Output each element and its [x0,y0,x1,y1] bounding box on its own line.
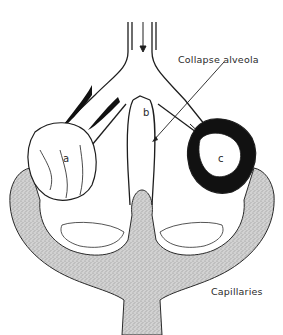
alveolus-c-label: c [218,153,224,164]
alveolus-a-label: a [63,153,69,164]
label-capillaries: Capillaries [211,286,263,297]
airflow-arrows [75,22,209,156]
label-collapse-alveola: Collapse alveola [178,54,259,65]
alveolus-b-label: b [143,107,149,118]
alveoli-diagram [0,0,283,335]
